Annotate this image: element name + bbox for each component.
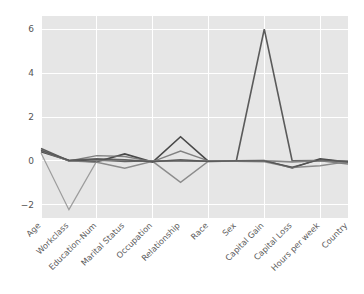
figure-container: 6420−2 AgeWorkclassEducation-NumMarital … [0, 0, 364, 294]
y-tick-label: 4 [28, 68, 34, 78]
y-tick-label: 0 [28, 156, 34, 166]
y-tick-label: 2 [28, 112, 34, 122]
y-tick-label: −2 [21, 200, 34, 210]
parallel-coordinates-chart: 6420−2 AgeWorkclassEducation-NumMarital … [0, 0, 364, 294]
y-tick-label: 6 [28, 24, 34, 34]
